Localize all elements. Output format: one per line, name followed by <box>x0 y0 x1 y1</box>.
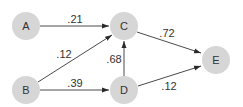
edge-weight-a-c: .21 <box>67 13 82 25</box>
edge-d-e: .12 <box>138 66 201 92</box>
graph-diagram: .21 .12 .39 .68 .72 .12 A B <box>0 0 243 107</box>
edge-line-b-c <box>38 35 112 82</box>
node-c: C <box>110 12 138 40</box>
node-d-label: D <box>120 84 128 96</box>
edge-a-c: .21 <box>40 13 109 26</box>
node-b: B <box>12 76 40 104</box>
node-e: E <box>202 46 230 74</box>
edge-b-d: .39 <box>40 77 109 90</box>
node-e-label: E <box>212 54 219 66</box>
edge-weight-b-c: .12 <box>56 48 71 60</box>
node-b-label: B <box>22 84 29 96</box>
edge-b-c: .12 <box>38 35 112 82</box>
edge-c-e: .72 <box>137 27 201 53</box>
node-a: A <box>12 12 40 40</box>
node-d: D <box>110 76 138 104</box>
edge-weight-c-e: .72 <box>159 27 174 39</box>
edge-weight-b-d: .39 <box>67 77 82 89</box>
node-c-label: C <box>120 20 128 32</box>
edge-weight-d-c: .68 <box>106 53 121 65</box>
node-a-label: A <box>22 20 30 32</box>
edge-d-c: .68 <box>106 41 124 76</box>
edge-weight-d-e: .12 <box>161 80 176 92</box>
